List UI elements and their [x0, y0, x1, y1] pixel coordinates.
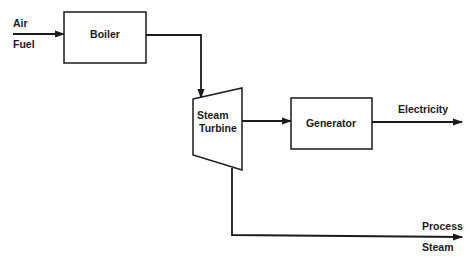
electricity-label: Electricity [398, 103, 448, 115]
generator-label: Generator [306, 117, 356, 129]
turbine-label-line2: Turbine [199, 122, 237, 134]
steam-turbine-node: Steam Turbine [193, 88, 242, 170]
air-fuel-input: Air Fuel [13, 17, 64, 50]
cogeneration-diagram: Air Fuel Boiler Steam Turbine Generator … [0, 0, 474, 264]
boiler-to-turbine-arrow [146, 35, 201, 98]
process-steam-output: Process Steam [232, 168, 463, 253]
turbine-label-line1: Steam [197, 109, 229, 121]
generator-node: Generator [291, 98, 372, 149]
boiler-node: Boiler [64, 12, 146, 63]
air-label: Air [13, 17, 28, 29]
electricity-output: Electricity [372, 103, 462, 122]
steam-label: Steam [422, 241, 454, 253]
fuel-label: Fuel [13, 38, 35, 50]
boiler-label: Boiler [90, 28, 120, 40]
process-label: Process [422, 220, 463, 232]
